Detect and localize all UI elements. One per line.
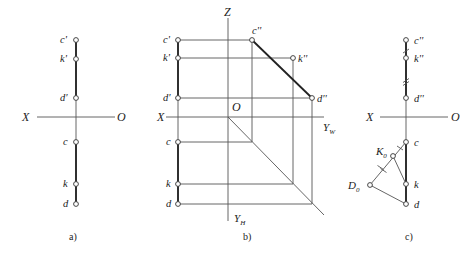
point-label: k [166, 178, 171, 189]
origin-label: O [232, 100, 241, 114]
point-label: c' [163, 34, 171, 45]
point-marker [74, 96, 79, 101]
yh-axis-label: YH [234, 212, 246, 227]
z-axis-label: Z [224, 5, 231, 19]
projection-figure: XOc'k'd'ckda) XOZYWYHc'k'd'ckdc''k''d''b… [0, 0, 476, 259]
point-label: c [414, 137, 419, 148]
point-marker [74, 182, 79, 187]
miter-line [228, 117, 324, 215]
point-label: D0 [347, 179, 360, 194]
point-marker [176, 182, 181, 187]
point-label: k' [163, 52, 171, 63]
point-label: d [63, 198, 69, 209]
point-label: K0 [375, 145, 387, 160]
point-marker [291, 56, 296, 61]
line-segment [252, 40, 312, 98]
panel-b: XOZYWYHc'k'd'ckdc''k''d''b) [156, 5, 336, 243]
point-marker [74, 202, 79, 207]
point-label: k' [60, 53, 68, 64]
x-axis-label: X [365, 110, 374, 124]
origin-label: O [451, 110, 460, 124]
point-marker [404, 56, 409, 61]
point-label: d [414, 199, 420, 210]
panel-caption: a) [69, 231, 77, 243]
point-label: k [63, 178, 68, 189]
point-marker [74, 38, 79, 43]
point-label: c [166, 136, 171, 147]
point-label: k [414, 179, 419, 190]
point-label: c'' [414, 35, 424, 46]
point-marker [74, 140, 79, 145]
point-marker [176, 140, 181, 145]
projection-diagram: XOc'k'd'ckda) XOZYWYHc'k'd'ckdc''k''d''b… [0, 0, 476, 259]
origin-label: O [117, 110, 126, 124]
construction-line [393, 156, 406, 184]
point-marker [176, 38, 181, 43]
panel-caption: c) [405, 231, 413, 243]
x-axis-label: X [156, 110, 165, 124]
point-label: d [166, 198, 172, 209]
point-marker [404, 182, 409, 187]
point-marker [368, 183, 373, 188]
point-marker [176, 96, 181, 101]
point-marker [391, 154, 396, 159]
point-marker [404, 96, 409, 101]
point-marker [74, 57, 79, 62]
panel-c: XOc''k''d''cK0D0kdc) [347, 35, 460, 243]
point-label: c' [60, 34, 68, 45]
yw-axis-label: YW [323, 121, 336, 136]
point-label: d'' [317, 93, 327, 104]
point-label: k'' [414, 53, 424, 64]
panel-caption: b) [243, 231, 251, 243]
construction-line [370, 185, 406, 204]
point-label: d'' [414, 93, 424, 104]
point-label: c [63, 136, 68, 147]
point-marker [404, 202, 409, 207]
point-label: d' [163, 92, 171, 103]
panel-a: XOc'k'd'ckda) [21, 34, 126, 243]
point-label: k'' [298, 53, 308, 64]
point-marker [176, 202, 181, 207]
point-marker [404, 38, 409, 43]
point-marker [250, 38, 255, 43]
point-marker [404, 140, 409, 145]
point-label: c'' [252, 25, 262, 36]
x-axis-label: X [21, 110, 30, 124]
point-marker [176, 56, 181, 61]
point-marker [310, 96, 315, 101]
point-label: d' [60, 92, 68, 103]
